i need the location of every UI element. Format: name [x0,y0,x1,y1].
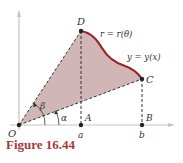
label-B: B [145,113,153,123]
point-A [79,123,83,127]
label-C: C [146,74,154,85]
label-A: A [84,113,92,123]
point-B [140,123,144,127]
y-axis-arrow-icon [17,10,21,17]
label-polar-curve: r = r(θ) [100,29,132,39]
label-cartesian-curve: y = y(x) [126,52,161,62]
label-beta: β [39,101,45,111]
x-axis-arrow-icon [168,123,175,127]
point-D [79,29,83,33]
figure-caption: Figure 16.44 [6,137,75,153]
label-D: D [76,16,85,27]
label-b: b [139,130,145,140]
point-O [17,123,21,127]
point-C [140,77,144,81]
label-alpha: α [61,113,67,123]
label-a: a [78,130,83,140]
